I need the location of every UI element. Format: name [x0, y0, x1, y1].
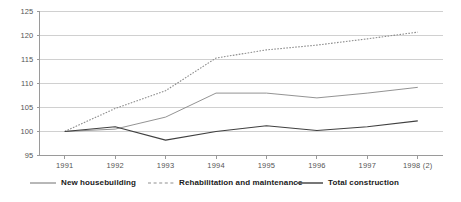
legend-label: Rehabilitation and maintenance: [179, 178, 302, 187]
y-tick-label: 115: [21, 55, 34, 64]
legend-label: New housebuilding: [61, 178, 136, 187]
series-line: [65, 121, 418, 140]
legend-label: Total construction: [328, 178, 399, 187]
y-tick-label: 110: [21, 79, 34, 88]
x-tick-label: 1998 (2): [388, 161, 448, 170]
gridlines: [40, 12, 444, 156]
legend-line-swatch: [30, 178, 56, 187]
legend-item[interactable]: Total construction: [297, 178, 399, 187]
chart-legend: New housebuildingRehabilitation and main…: [0, 176, 461, 196]
legend-line-swatch: [148, 178, 174, 187]
y-tick-label: 95: [25, 151, 34, 160]
line-chart: 95100105110115120125 1991199219931994199…: [0, 0, 461, 202]
legend-item[interactable]: New housebuilding: [30, 178, 136, 187]
series-lines: [65, 32, 418, 140]
series-line: [65, 87, 418, 131]
y-tick-label: 125: [20, 7, 33, 16]
legend-item[interactable]: Rehabilitation and maintenance: [148, 178, 302, 187]
y-tick-label: 100: [20, 127, 33, 136]
plot-area: [0, 0, 461, 202]
series-line: [65, 32, 418, 131]
y-tick-label: 105: [20, 103, 33, 112]
legend-line-swatch: [297, 178, 323, 187]
y-tick-label: 120: [20, 31, 33, 40]
